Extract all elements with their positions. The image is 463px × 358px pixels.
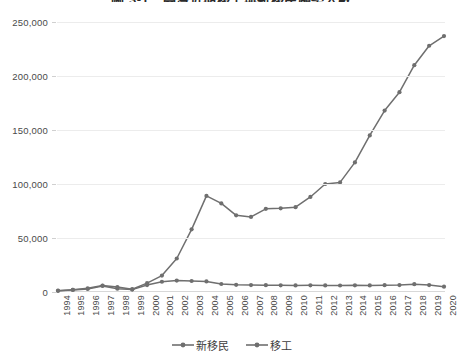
x-axis-tick-label: 1999 [136,295,146,316]
data-point [383,108,387,112]
data-point [279,206,283,210]
data-point [412,282,416,286]
x-axis-tick-label: 2016 [388,295,398,316]
x-axis-tick-label: 2020 [448,295,458,316]
series-1 [56,278,446,292]
data-point [204,194,208,198]
gridline [57,238,445,239]
data-point [264,283,268,287]
data-point [219,201,223,205]
x-axis-tick-label: 2019 [433,295,443,316]
x-axis-tick-label: 2008 [269,295,279,316]
x-axis-tick-label: 1994 [62,295,72,316]
chart-title: 圖 3-1 臺灣近期移工與新移民趨勢人數 [0,0,463,2]
data-point [293,205,297,209]
x-axis-tick-label: 2012 [329,295,339,316]
gridline [57,22,445,23]
x-axis-tick-label: 2004 [210,295,220,316]
plot-area [57,22,445,292]
x-axis-tick-label: 2014 [358,295,368,316]
x-axis-tick-label: 2001 [165,295,175,316]
data-point [323,283,327,287]
data-point [397,90,401,94]
x-axis-tick-label: 2015 [373,295,383,316]
x-axis-tick-label: 2002 [180,295,190,316]
data-point [293,283,297,287]
legend-line-marker-icon [172,336,194,354]
x-axis-tick-label: 1995 [76,295,86,316]
data-point [175,256,179,260]
data-point [204,279,208,283]
x-axis-tick-label: 2005 [225,295,235,316]
data-point [427,283,431,287]
x-axis-tick-label: 2010 [299,295,309,316]
data-point [56,289,60,293]
data-point [115,285,119,289]
series-line [58,36,444,291]
x-axis-tick-label: 2009 [284,295,294,316]
data-point [160,280,164,284]
data-point [353,283,357,287]
x-axis-tick-label: 2006 [240,295,250,316]
data-point [145,281,149,285]
data-point [442,285,446,289]
data-point [368,133,372,137]
data-point [308,195,312,199]
x-axis-tick-label: 2018 [418,295,428,316]
x-axis-tick-label: 2013 [344,295,354,316]
legend-label: 移工 [270,337,292,353]
y-axis-tick [52,292,56,293]
data-point [338,283,342,287]
data-point [219,282,223,286]
data-point [234,213,238,217]
legend-item-1[interactable]: 新移民 [172,336,229,354]
x-axis-tick-label: 2007 [255,295,265,316]
data-point [175,278,179,282]
y-axis-tick-label: 150,000 [12,125,48,136]
data-point [383,283,387,287]
data-point [100,283,104,287]
x-axis-tick-label: 2000 [151,295,161,316]
data-point [249,283,253,287]
data-point [190,227,194,231]
data-point [264,207,268,211]
gridline [57,184,445,185]
data-point [130,287,134,291]
data-point [279,283,283,287]
y-axis-tick [52,76,56,77]
y-axis-tick-label: 250,000 [12,17,48,28]
gridline [57,130,445,131]
x-axis-tick-label: 2017 [403,295,413,316]
chart-container: 圖 3-1 臺灣近期移工與新移民趨勢人數 050,000100,000150,0… [0,0,463,358]
y-axis-tick-label: 50,000 [18,233,48,244]
y-axis-tick [52,184,56,185]
data-point [86,286,90,290]
series-layer [57,22,445,292]
gridline [57,76,445,77]
data-point [397,283,401,287]
series-2 [56,34,446,293]
legend-line-marker-icon [246,336,268,354]
data-point [442,34,446,38]
x-axis-tick-label: 2003 [195,295,205,316]
x-axis: 1994199519961997199819992000200120022003… [0,294,463,334]
y-axis-tick [52,130,56,131]
data-point [412,63,416,67]
y-axis-tick-label: 100,000 [12,179,48,190]
data-point [308,283,312,287]
data-point [427,44,431,48]
x-axis-tick-label: 1998 [121,295,131,316]
x-axis-tick-label: 1996 [91,295,101,316]
y-axis-tick [52,22,56,23]
legend-label: 新移民 [196,337,229,353]
data-point [160,273,164,277]
x-axis-tick-label: 1997 [106,295,116,316]
data-point [368,283,372,287]
data-point [71,288,75,292]
data-point [234,283,238,287]
x-axis-tick-label: 2011 [314,295,324,315]
legend-item-2[interactable]: 移工 [246,336,292,354]
data-point [353,160,357,164]
chart-legend: 新移民移工 [0,336,463,354]
data-point [249,215,253,219]
